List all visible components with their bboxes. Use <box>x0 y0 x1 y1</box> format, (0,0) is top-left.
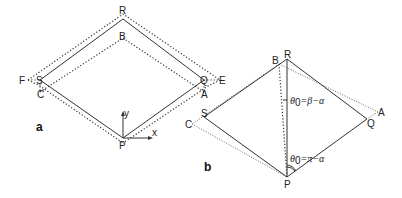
panel-label-b: b <box>204 160 211 174</box>
label-B-b: B <box>272 55 279 66</box>
label-A: A <box>201 89 208 100</box>
label-F: F <box>19 75 25 86</box>
dotted-B-P <box>279 64 287 177</box>
x-axis-label: x <box>152 127 157 138</box>
diagram-canvas: y x R B F S C Q E A P a R B S C Q A <box>0 0 402 198</box>
figure-a: y x R B F S C Q E A P a <box>19 5 226 151</box>
label-R: R <box>119 5 126 16</box>
angle-expression: =β−α <box>300 95 324 106</box>
figure-b: R B S C Q A P b θ0=β−α θ0=π−α <box>185 49 385 190</box>
panel-label-a: a <box>36 120 43 134</box>
label-P: P <box>119 140 126 151</box>
label-B: B <box>119 31 126 42</box>
label-Q-b: Q <box>367 118 375 129</box>
label-A-b: A <box>378 107 385 118</box>
label-S-b: S <box>201 108 208 119</box>
label-R-b: R <box>284 49 291 60</box>
label-P-b: P <box>284 179 291 190</box>
angle-label-top: θ0=β−α <box>290 95 325 108</box>
angle-expression: =π−α <box>300 153 325 164</box>
label-C: C <box>37 89 44 100</box>
label-S: S <box>36 75 43 86</box>
label-E: E <box>219 75 226 86</box>
solid-rhombus-PQRS-b <box>204 59 367 177</box>
inner-dotted-rhombus <box>40 38 204 92</box>
label-Q: Q <box>200 75 208 86</box>
y-axis-label: y <box>124 108 129 119</box>
angle-label-bottom: θ0=π−α <box>290 153 325 166</box>
label-C-b: C <box>185 119 192 130</box>
